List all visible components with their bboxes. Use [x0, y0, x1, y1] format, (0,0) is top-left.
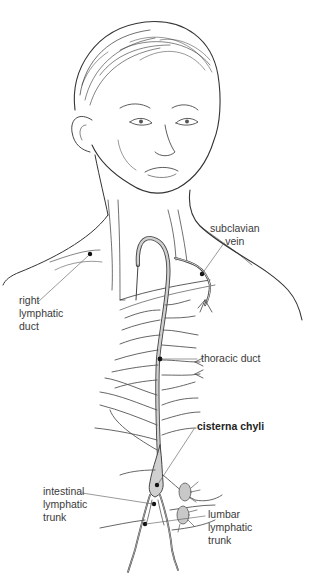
- thoracic-duct-marker: [158, 357, 163, 362]
- label-intestinal-lymphatic-trunk: intestinal lymphatic trunk: [43, 485, 87, 524]
- cisterna-chyli-structure: [100, 445, 222, 572]
- label-right-lymphatic-duct: right lymphatic duct: [19, 294, 63, 333]
- label-subclavian-vein: subclavian vein: [210, 222, 260, 248]
- lymphatic-diagram: subclavian vein right lymphatic duct tho…: [0, 0, 309, 576]
- head-drawing: [72, 22, 220, 193]
- lymph-tributaries: [95, 300, 212, 450]
- right-lymphatic-duct-marker: [88, 252, 92, 256]
- label-thoracic-duct: thoracic duct: [201, 352, 261, 365]
- label-lumbar-lymphatic-trunk: lumbar lymphatic trunk: [208, 508, 252, 547]
- label-cisterna-chyli: cisterna chyli: [197, 420, 264, 433]
